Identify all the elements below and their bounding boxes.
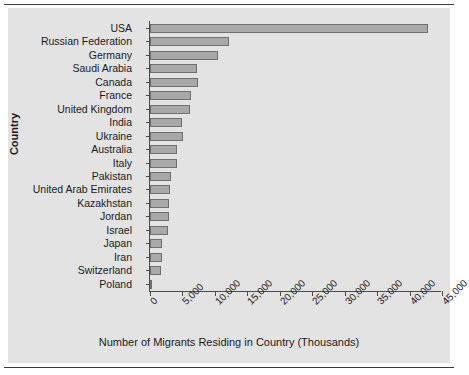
- bar: [150, 132, 183, 141]
- category-label: Italy: [0, 157, 132, 170]
- category-label: Japan: [0, 237, 132, 250]
- category-label: Pakistan: [0, 170, 132, 183]
- category-label: Canada: [0, 76, 132, 89]
- bar: [150, 37, 229, 46]
- bar: [150, 185, 170, 194]
- category-label: Iran: [0, 251, 132, 264]
- category-label: Poland: [0, 278, 132, 291]
- bar: [150, 239, 162, 248]
- x-axis-title: Number of Migrants Residing in Country (…: [8, 336, 450, 348]
- bar-row: Japan: [150, 237, 442, 250]
- bar: [150, 51, 218, 60]
- bar: [150, 24, 428, 33]
- bar-row: Pakistan: [150, 170, 442, 183]
- category-label: Israel: [0, 224, 132, 237]
- category-label: United Arab Emirates: [0, 183, 132, 196]
- bar-row: USA: [150, 22, 442, 35]
- chart-title: [0, 0, 458, 3]
- category-label: France: [0, 89, 132, 102]
- bar: [150, 64, 197, 73]
- category-label: Australia: [0, 143, 132, 156]
- bar: [150, 105, 190, 114]
- bar-row: Saudi Arabia: [150, 62, 442, 75]
- bar: [150, 78, 198, 87]
- bar: [150, 266, 161, 275]
- bar-row: United Kingdom: [150, 103, 442, 116]
- bar: [150, 226, 168, 235]
- category-label: Russian Federation: [0, 35, 132, 48]
- bar-row: Canada: [150, 76, 442, 89]
- bar: [150, 172, 171, 181]
- bar-row: Australia: [150, 143, 442, 156]
- category-label: Kazakhstan: [0, 197, 132, 210]
- bar-row: France: [150, 89, 442, 102]
- bar: [150, 253, 162, 262]
- bar-row: Jordan: [150, 210, 442, 223]
- category-label: Jordan: [0, 210, 132, 223]
- bar: [150, 280, 152, 289]
- category-label: India: [0, 116, 132, 129]
- figure-top-rule: [4, 4, 454, 5]
- bar-row: United Arab Emirates: [150, 183, 442, 196]
- bar-row: India: [150, 116, 442, 129]
- bar: [150, 199, 169, 208]
- category-label: Germany: [0, 49, 132, 62]
- bar: [150, 159, 177, 168]
- category-label: Saudi Arabia: [0, 62, 132, 75]
- bar-row: Iran: [150, 251, 442, 264]
- bar: [150, 91, 191, 100]
- bar: [150, 145, 177, 154]
- bar-row: Russian Federation: [150, 35, 442, 48]
- bar: [150, 118, 182, 127]
- bar-row: Kazakhstan: [150, 197, 442, 210]
- bar-row: Italy: [150, 157, 442, 170]
- bar-row: Ukraine: [150, 130, 442, 143]
- bar-row: Switzerland: [150, 264, 442, 277]
- bar: [150, 212, 169, 221]
- plot-area: USARussian FederationGermanySaudi Arabia…: [150, 22, 442, 291]
- figure-bottom-rule: [4, 367, 454, 368]
- category-label: Ukraine: [0, 130, 132, 143]
- category-label: Switzerland: [0, 264, 132, 277]
- category-label: United Kingdom: [0, 103, 132, 116]
- bar-row: Israel: [150, 224, 442, 237]
- bar-row: Germany: [150, 49, 442, 62]
- category-label: USA: [0, 22, 132, 35]
